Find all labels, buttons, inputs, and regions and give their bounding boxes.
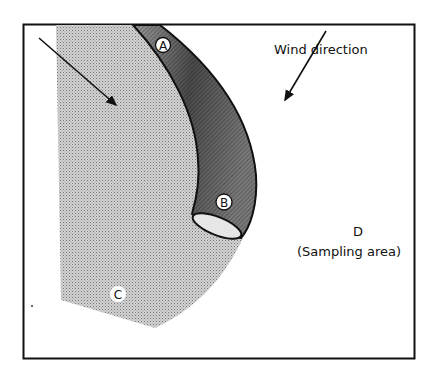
- label-a: A: [156, 38, 171, 53]
- label-a-text: A: [159, 39, 168, 53]
- diagram-canvas: A B C D (Sampling area) Wind direction: [0, 0, 436, 376]
- label-c-text: C: [114, 288, 122, 302]
- label-b: B: [216, 194, 232, 210]
- wind-direction-label: Wind direction: [274, 42, 368, 57]
- label-c: C: [110, 286, 126, 302]
- label-d-text: D: [353, 224, 363, 239]
- label-b-text: B: [220, 196, 228, 210]
- sampling-area-caption: (Sampling area): [297, 244, 401, 259]
- stray-dot: [31, 305, 33, 307]
